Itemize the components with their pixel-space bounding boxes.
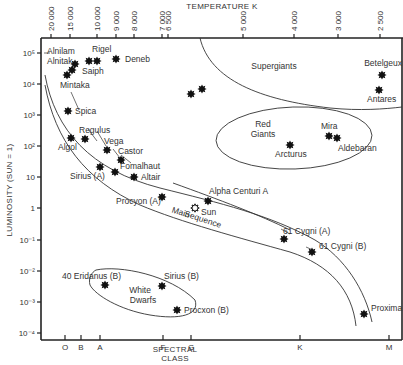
star-label: Procxon (B)	[184, 305, 229, 315]
temperature-tick-label: 3 000	[334, 10, 343, 31]
spectral-tick-label: A	[97, 343, 103, 352]
temperature-tick-label: 15 000	[66, 6, 75, 31]
star-label: Alpha Centuri A	[209, 186, 268, 196]
luminosity-tick-label: 10⁵	[23, 49, 35, 58]
star-marker	[186, 89, 195, 98]
star-icon	[92, 56, 101, 65]
star-marker: 61 Cygni (B)	[307, 241, 366, 257]
region-label: Red	[255, 119, 271, 129]
star-icon	[102, 145, 111, 154]
luminosity-tick-label: 10⁴	[23, 80, 36, 89]
region-boundaries	[45, 38, 402, 326]
star-marker: Proxima	[359, 303, 402, 319]
star-icon	[197, 84, 206, 93]
red-giants-boundary	[215, 104, 373, 171]
star-label: Sun	[201, 207, 216, 217]
luminosity-tick-label: 10⁻³	[19, 298, 35, 307]
spectral-class-title-line1: SPECTRAL	[153, 345, 198, 354]
star-icon	[203, 196, 212, 205]
star-marker: Alnitak	[47, 56, 77, 75]
temperature-tick-label: 20 000	[47, 6, 56, 31]
star-label: Mintaka	[60, 80, 90, 90]
star-icon	[172, 305, 181, 314]
star-label: Antares	[367, 94, 396, 104]
star-label: Fomalhaut	[120, 161, 161, 171]
temperature-tick-label: 5 000	[239, 10, 248, 31]
star-label: Altair	[141, 172, 161, 182]
star-marker: 40 Eridanus (B)	[62, 271, 121, 290]
star-label: Algol	[58, 142, 77, 152]
temperature-axis-title: TEMPERATURE K	[186, 2, 258, 11]
star-icon	[62, 70, 71, 79]
star-label: Betelgeux	[364, 58, 403, 68]
star-marker: Aldebaran	[332, 133, 377, 153]
hr-diagram: TEMPERATURE K 20 00015 00010 0009 0008 0…	[0, 0, 403, 365]
luminosity-tick-label: 10²	[23, 142, 35, 151]
temperature-tick-label: 8 000	[130, 10, 139, 31]
star-label: Alnilam	[47, 46, 75, 56]
star-label: Vega	[104, 136, 124, 146]
star-icon	[324, 131, 333, 140]
luminosity-ticks: 10⁵10⁴10³10²10110⁻¹10⁻²10⁻³10⁻⁴	[19, 49, 41, 338]
star-marker: Procxon (B)	[172, 305, 229, 315]
spectral-tick-label: B	[78, 343, 83, 352]
region-label: White	[129, 285, 151, 295]
star-marker: Altair	[129, 172, 160, 182]
star-marker: Antares	[367, 85, 396, 104]
star-icon	[110, 167, 119, 176]
star-icon	[100, 280, 109, 289]
star-label: Arcturus	[275, 149, 307, 159]
star-marker: Sirius (A)	[70, 162, 105, 181]
star-icon	[84, 56, 93, 65]
region-label: Dwarfs	[130, 295, 156, 305]
star-label: 61 Cygni (B)	[319, 241, 366, 251]
star-icon	[80, 134, 89, 143]
luminosity-tick-label: 10⁻⁴	[19, 329, 36, 338]
star-label: Regulus	[79, 125, 110, 135]
spectral-tick-label: K	[297, 343, 303, 352]
star-label: Mira	[321, 121, 338, 131]
region-labels: SupergiantsRedGiantsWhiteDwarfsMainSeque…	[129, 61, 297, 305]
luminosity-tick-label: 10⁻¹	[19, 236, 35, 245]
spectral-tick-label: M	[386, 343, 393, 352]
sun-icon	[191, 204, 199, 212]
star-label: Spica	[75, 106, 97, 116]
star-label: Proxima	[371, 303, 402, 313]
luminosity-tick-label: 10⁻²	[19, 267, 35, 276]
star-marker: Arcturus	[275, 140, 307, 159]
star-icon	[377, 70, 386, 79]
star-label: Sirius (B)	[164, 271, 199, 281]
star-icon	[157, 281, 166, 290]
star-label: 61 Cygni (A)	[283, 226, 330, 236]
spectral-class-title-line2: CLASS	[161, 354, 189, 363]
star-marker: Betelgeux	[364, 58, 403, 80]
temperature-tick-label: 10 000	[93, 6, 102, 31]
star-icon	[307, 247, 316, 256]
star-label: Rigel	[92, 44, 111, 54]
main-sequence-lower	[45, 85, 356, 326]
star-icon	[63, 106, 72, 115]
temperature-tick-label: 9 000	[112, 10, 121, 31]
region-label: Supergiants	[251, 61, 296, 71]
spectral-tick-label: O	[62, 343, 68, 352]
star-icon	[332, 133, 341, 142]
star-marker: Algol	[58, 133, 77, 152]
star-label: Aldebaran	[338, 143, 377, 153]
luminosity-tick-label: 1	[31, 204, 36, 213]
star-label: Alnitak	[47, 56, 73, 66]
luminosity-tick-label: 10	[26, 173, 35, 182]
star-icon	[111, 54, 120, 63]
star-marker: Saiph	[82, 56, 104, 76]
spectral-class-ticks: OBAFGKM	[62, 335, 393, 352]
star-icon	[129, 172, 138, 181]
star-icon	[186, 89, 195, 98]
star-marker: Procyon (A)	[116, 192, 167, 206]
star-label: 40 Eridanus (B)	[62, 271, 121, 281]
star-marker: Alpha Centuri A	[203, 186, 268, 206]
star-marker: Deneb	[111, 54, 150, 64]
region-label: Giants	[251, 129, 276, 139]
luminosity-axis-title: LUMINOSITY (SUN = 1)	[5, 144, 14, 237]
star-marker	[197, 84, 206, 93]
star-label: Saiph	[82, 66, 104, 76]
star-label: Procyon (A)	[116, 196, 161, 206]
